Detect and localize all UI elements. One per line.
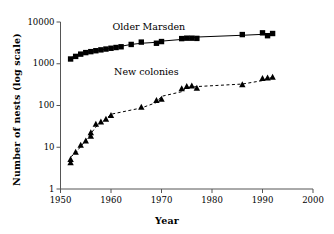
data-point-triangle bbox=[269, 74, 275, 80]
series-annotation-older-marsden: Older Marsden bbox=[113, 21, 186, 32]
series-trend-line bbox=[71, 34, 273, 58]
data-point-square bbox=[179, 36, 184, 41]
series-older-marsden bbox=[68, 30, 275, 62]
x-tick-label: 1970 bbox=[142, 195, 182, 205]
data-point-square bbox=[154, 41, 159, 46]
y-tick-label: 10000 bbox=[11, 17, 55, 27]
data-point-square bbox=[270, 31, 275, 36]
data-point-square bbox=[93, 48, 98, 53]
data-point-triangle bbox=[67, 156, 73, 162]
x-tick-label: 1950 bbox=[41, 195, 81, 205]
data-point-square bbox=[73, 54, 78, 59]
x-tick-label: 1990 bbox=[243, 195, 283, 205]
data-point-square bbox=[194, 36, 199, 41]
data-point-triangle bbox=[189, 82, 195, 88]
data-point-square bbox=[83, 50, 88, 55]
data-point-square bbox=[184, 35, 189, 40]
x-tick-label: 2000 bbox=[293, 195, 333, 205]
data-point-square bbox=[98, 47, 103, 52]
data-point-square bbox=[159, 39, 164, 44]
data-point-square bbox=[265, 33, 270, 38]
data-point-triangle bbox=[153, 97, 159, 103]
x-tick-label: 1980 bbox=[192, 195, 232, 205]
data-point-square bbox=[129, 42, 134, 47]
data-point-square bbox=[118, 44, 123, 49]
chart-container: Year Number of nests (log scale) 1101001… bbox=[0, 0, 334, 234]
data-point-triangle bbox=[179, 85, 185, 91]
data-point-square bbox=[103, 46, 108, 51]
data-point-square bbox=[260, 30, 265, 35]
series-new-colonies bbox=[67, 74, 275, 166]
data-point-square bbox=[189, 35, 194, 40]
data-point-square bbox=[113, 45, 118, 50]
data-point-triangle bbox=[108, 112, 114, 118]
data-point-triangle bbox=[138, 104, 144, 110]
series-annotation-new-colonies: New colonies bbox=[114, 66, 179, 77]
data-point-square bbox=[240, 32, 245, 37]
data-point-square bbox=[139, 39, 144, 44]
data-point-square bbox=[68, 56, 73, 61]
data-point-square bbox=[108, 46, 113, 51]
data-point-square bbox=[78, 51, 83, 56]
x-axis-title: Year bbox=[0, 215, 334, 226]
y-tick-label: 1 bbox=[11, 184, 55, 194]
data-point-triangle bbox=[72, 149, 78, 155]
x-tick-label: 1960 bbox=[91, 195, 131, 205]
series-trend-line bbox=[71, 78, 273, 157]
data-point-square bbox=[88, 49, 93, 54]
y-tick-label: 10 bbox=[11, 142, 55, 152]
y-tick-label: 100 bbox=[11, 100, 55, 110]
y-tick-label: 1000 bbox=[11, 58, 55, 68]
